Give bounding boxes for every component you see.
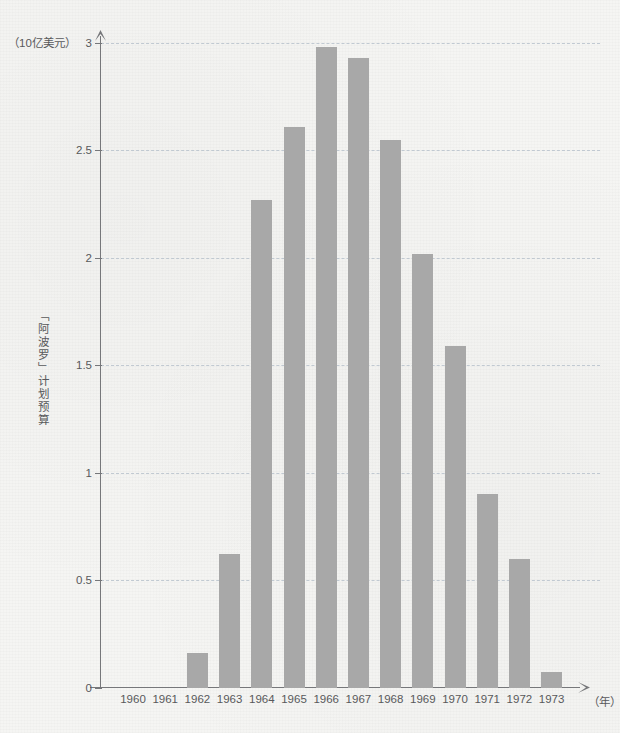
gridline bbox=[101, 43, 600, 44]
x-tick-label: 1973 bbox=[532, 693, 572, 705]
y-tick-label: 2.5 bbox=[62, 144, 92, 156]
bar bbox=[412, 254, 433, 688]
y-tick-mark bbox=[95, 365, 102, 366]
y-tick-label: 1.5 bbox=[62, 359, 92, 371]
bar bbox=[445, 346, 466, 688]
bar bbox=[509, 559, 530, 688]
bar-chart-figure: （10亿美元） 「阿波罗」计划预算 00.511.522.53 19601961… bbox=[0, 0, 620, 733]
y-tick-label: 0.5 bbox=[62, 574, 92, 586]
bar bbox=[284, 127, 305, 688]
y-tick-mark bbox=[95, 258, 102, 259]
y-tick-label: 1 bbox=[62, 467, 92, 479]
y-tick-mark bbox=[95, 473, 102, 474]
plot-area bbox=[101, 43, 600, 688]
x-axis-unit-label: （年） bbox=[588, 693, 620, 709]
bar bbox=[348, 58, 369, 687]
y-tick-label: 0 bbox=[62, 682, 92, 694]
chart-title bbox=[110, 0, 530, 5]
y-tick-label: 2 bbox=[62, 252, 92, 264]
y-axis-arrow-icon bbox=[94, 30, 107, 42]
y-tick-label: 3 bbox=[62, 37, 92, 49]
y-tick-mark bbox=[95, 688, 102, 689]
bar bbox=[380, 140, 401, 688]
y-axis-title: 「阿波罗」计划预算 bbox=[34, 310, 50, 427]
y-tick-mark bbox=[95, 580, 102, 581]
y-tick-mark bbox=[95, 150, 102, 151]
bar bbox=[541, 672, 562, 687]
bar bbox=[187, 653, 208, 687]
y-tick-mark bbox=[95, 43, 102, 44]
bar bbox=[219, 554, 240, 687]
bar bbox=[316, 47, 337, 687]
bar bbox=[477, 494, 498, 687]
bar bbox=[251, 200, 272, 688]
